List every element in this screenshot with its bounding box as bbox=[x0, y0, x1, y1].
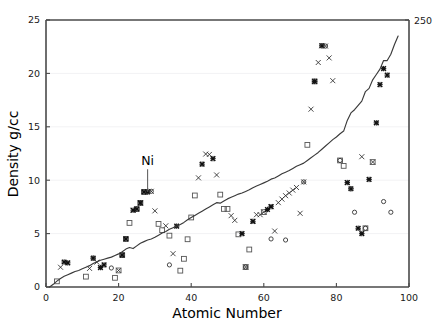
x-axis-title: Atomic Number bbox=[172, 305, 282, 321]
y-axis-title: Density g/cc bbox=[5, 111, 21, 198]
marker-asterisk bbox=[210, 156, 215, 161]
marker-asterisk bbox=[366, 177, 371, 182]
marker-asterisk bbox=[239, 231, 244, 236]
marker-asterisk bbox=[359, 231, 364, 236]
marker-asterisk bbox=[377, 82, 382, 87]
x-tick-label: 100 bbox=[400, 292, 418, 303]
x-tick-label: 60 bbox=[258, 292, 270, 303]
y-tick-label: 25 bbox=[28, 14, 40, 25]
ni-annotation-label: Ni bbox=[141, 153, 154, 168]
y-tick-label: 5 bbox=[34, 228, 40, 239]
chart-background bbox=[0, 0, 448, 328]
marker-asterisk bbox=[199, 161, 204, 166]
marker-asterisk bbox=[385, 72, 390, 77]
x-tick-label: 80 bbox=[330, 292, 342, 303]
y-tick-label: 0 bbox=[34, 281, 40, 292]
marker-asterisk bbox=[312, 79, 317, 84]
right-axis-top-label: 250 bbox=[414, 15, 432, 26]
y-tick-label: 20 bbox=[28, 68, 40, 79]
marker-asterisk bbox=[65, 260, 70, 265]
x-tick-label: 40 bbox=[185, 292, 197, 303]
density-vs-atomic-number-chart: 0510152025 020406080100 Ni 250 Atomic Nu… bbox=[0, 0, 448, 328]
chart-figure: 0510152025 020406080100 Ni 250 Atomic Nu… bbox=[0, 0, 448, 328]
y-tick-label: 15 bbox=[28, 121, 40, 132]
y-tick-label: 10 bbox=[28, 175, 40, 186]
marker-asterisk bbox=[355, 226, 360, 231]
marker-asterisk bbox=[345, 180, 350, 185]
marker-asterisk bbox=[268, 204, 273, 209]
marker-asterisk bbox=[250, 219, 255, 224]
marker-asterisk bbox=[138, 200, 143, 205]
marker-asterisk bbox=[374, 120, 379, 125]
marker-asterisk bbox=[101, 262, 106, 267]
marker-asterisk bbox=[134, 206, 139, 211]
x-tick-label: 0 bbox=[43, 292, 49, 303]
marker-asterisk bbox=[123, 236, 128, 241]
marker-asterisk bbox=[381, 66, 386, 71]
x-tick-label: 20 bbox=[113, 292, 125, 303]
